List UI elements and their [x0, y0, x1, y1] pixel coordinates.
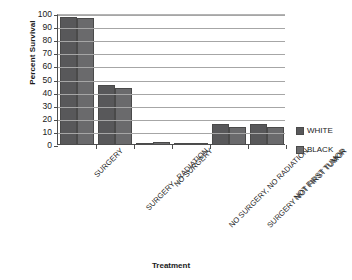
legend-item-white[interactable]: WHITE [296, 127, 352, 135]
bar-white [212, 124, 229, 145]
y-axis-tick-label: 50 [43, 75, 52, 84]
bar-black [229, 127, 246, 145]
x-axis-title: Treatment [57, 261, 285, 270]
y-axis-tick-label: 10 [43, 128, 52, 137]
bar-black [267, 127, 284, 145]
y-axis-tick-label: 30 [43, 101, 52, 110]
legend-swatch-icon [296, 127, 304, 135]
y-axis-tick-label: 90 [43, 23, 52, 32]
legend-item-black[interactable]: BLACK [296, 146, 352, 154]
y-axis-tick-mark [54, 120, 58, 121]
y-axis-tick-mark [54, 81, 58, 82]
x-axis-tick-label: SURGERY [93, 147, 125, 179]
bar-black [115, 88, 132, 145]
y-axis-tick-labels: 1009080706050403020100 [26, 14, 52, 145]
gridline [58, 67, 285, 68]
y-axis-tick-label: 80 [43, 36, 52, 45]
y-axis-tick-mark [54, 94, 58, 95]
y-axis-tick-label: 40 [43, 88, 52, 97]
gridline [58, 28, 285, 29]
legend-swatch-icon [296, 146, 304, 154]
gridline [58, 81, 285, 82]
y-axis-tick-label: 70 [43, 49, 52, 58]
y-axis-tick-mark [54, 67, 58, 68]
bar-chart: Percent Survival 1009080706050403020100 … [0, 0, 352, 280]
y-axis-tick-label: 100 [38, 10, 52, 19]
y-axis-tick-mark [54, 41, 58, 42]
gridline [58, 120, 285, 121]
y-axis-tick-mark [54, 107, 58, 108]
x-axis-tick-label: NO SURGERY [173, 147, 215, 189]
y-axis-tick-mark [54, 15, 58, 16]
gridline [58, 15, 285, 16]
y-axis-tick-mark [54, 133, 58, 134]
x-axis-tick-labels: SURGERYSURGERY , RADIATIONNO SURGERYNO S… [57, 147, 285, 252]
gridline [58, 133, 285, 134]
gridline [58, 107, 285, 108]
y-axis-tick-mark [54, 54, 58, 55]
bar-white [250, 124, 267, 145]
gridline [58, 54, 285, 55]
gridline [58, 41, 285, 42]
legend-label: BLACK [307, 146, 333, 154]
y-axis-tick-label: 0 [47, 141, 52, 150]
x-axis-tick-mark [286, 145, 287, 149]
chart-legend: WHITEBLACK [296, 127, 352, 165]
y-axis-tick-label: 20 [43, 115, 52, 124]
y-axis-tick-label: 60 [43, 62, 52, 71]
legend-label: WHITE [307, 127, 333, 135]
plot-area [57, 14, 285, 145]
gridline [58, 94, 285, 95]
y-axis-tick-mark [54, 28, 58, 29]
